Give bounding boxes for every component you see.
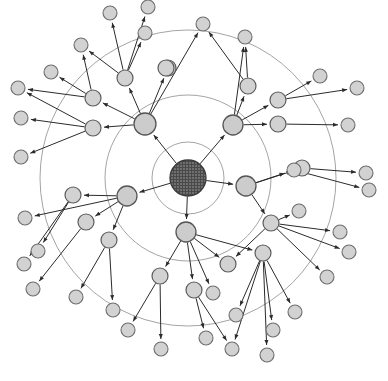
leaf-node-8[interactable]: [14, 150, 28, 164]
edge-hub5-m12-arrow: [190, 274, 194, 279]
mid-node-7[interactable]: [270, 116, 286, 132]
edge-hub5-l35-arrow: [205, 278, 209, 283]
leaf-node-34[interactable]: [287, 163, 301, 177]
mid-node-11[interactable]: [220, 256, 236, 272]
leaf-node-6[interactable]: [11, 81, 25, 95]
hub-upper-left[interactable]: [134, 113, 156, 135]
edge-m10-l23: [235, 261, 260, 339]
mid-node-12[interactable]: [186, 282, 202, 298]
edge-hub2-m5-arrow: [240, 96, 244, 101]
leaf-node-12[interactable]: [350, 81, 364, 95]
mid-node-9[interactable]: [263, 215, 279, 231]
leaf-node-19[interactable]: [320, 270, 334, 284]
leaf-node-16[interactable]: [292, 204, 306, 218]
edge-hub3-m14-arrow: [113, 224, 117, 229]
leaf-node-21[interactable]: [266, 323, 280, 337]
leaf-node-10[interactable]: [238, 30, 252, 44]
edge-hub1-l9-arrow: [194, 33, 198, 38]
leaf-node-23[interactable]: [225, 342, 239, 356]
edge-m6-l12-arrow: [342, 88, 347, 92]
edge-l34-l15-arrow: [354, 184, 359, 188]
leaf-node-17[interactable]: [333, 225, 347, 239]
leaf-node-1[interactable]: [103, 6, 117, 20]
leaf-node-13[interactable]: [341, 118, 355, 132]
leaf-node-31[interactable]: [31, 244, 45, 258]
edge-hub1-m2-arrow: [160, 78, 164, 83]
leaf-node-4[interactable]: [74, 38, 88, 52]
mid-node-13[interactable]: [152, 268, 168, 284]
edge-m14-l28: [81, 247, 105, 288]
radial-network-graph: [0, 0, 388, 381]
edge-m5-l10-arrow: [244, 47, 248, 52]
leaf-node-14[interactable]: [359, 166, 373, 180]
leaf-node-28[interactable]: [69, 290, 83, 304]
hub-upper-right[interactable]: [223, 115, 243, 135]
mid-node-3[interactable]: [85, 90, 101, 106]
edge-hub2-m7-arrow: [262, 122, 267, 126]
edge-m14-l32: [109, 248, 112, 300]
edge-m9-l18: [279, 226, 340, 249]
mid-node-16[interactable]: [65, 187, 81, 203]
edge-m1-l3-arrow: [141, 17, 145, 22]
edge-hub5-m10: [196, 235, 252, 250]
edge-m3-l6: [28, 89, 85, 97]
edge-m13-l26: [160, 285, 161, 340]
mid-node-4[interactable]: [85, 120, 101, 136]
leaf-node-33[interactable]: [18, 211, 32, 225]
mid-node-1[interactable]: [117, 70, 133, 86]
edge-hub3-m15-arrow: [95, 212, 100, 216]
leaf-node-2[interactable]: [138, 26, 152, 40]
edge-center-to-hub-lower-right-arrow: [228, 182, 233, 186]
edge-hub5-m13-arrow: [166, 261, 170, 266]
edge-m9-l19: [277, 229, 320, 270]
leaf-node-3[interactable]: [141, 0, 155, 14]
mid-node-10[interactable]: [255, 245, 271, 261]
leaf-node-15[interactable]: [362, 183, 376, 197]
leaf-node-5[interactable]: [44, 65, 58, 79]
edge-m6-l12: [286, 90, 347, 99]
leaf-node-27[interactable]: [121, 323, 135, 337]
edge-m10-l21-arrow: [269, 315, 273, 320]
mid-node-6[interactable]: [270, 92, 286, 108]
edge-hub5-m10-arrow: [247, 247, 252, 251]
hub-bottom[interactable]: [176, 222, 196, 242]
edge-m9-l18-arrow: [334, 245, 339, 249]
edge-m4-l7: [31, 119, 85, 126]
mid-node-15[interactable]: [78, 214, 94, 230]
leaf-node-7[interactable]: [14, 111, 28, 125]
edge-hub2-m6-arrow: [263, 105, 268, 109]
edge-center-to-hub-bottom-arrow: [185, 214, 189, 219]
edge-l34-l15: [301, 172, 359, 187]
leaf-node-9[interactable]: [196, 17, 210, 31]
hub-lower-right[interactable]: [236, 176, 256, 196]
edge-m5-l9-arrow: [209, 32, 214, 37]
edge-m10-l22-arrow: [264, 340, 268, 345]
leaf-node-35[interactable]: [206, 286, 220, 300]
leaf-node-20[interactable]: [288, 305, 302, 319]
leaf-node-30[interactable]: [17, 257, 31, 271]
edge-m10-l24: [240, 261, 260, 306]
leaf-node-32[interactable]: [106, 303, 120, 317]
edge-m1-l3: [128, 17, 145, 70]
hub-lower-left[interactable]: [117, 186, 137, 206]
leaf-node-29[interactable]: [26, 282, 40, 296]
edge-m7-l13-arrow: [333, 123, 338, 127]
edge-m10-l20: [267, 260, 290, 303]
center-hub[interactable]: [170, 160, 206, 196]
edge-m13-l27: [133, 283, 156, 321]
edge-m6-l11-arrow: [306, 81, 311, 85]
edge-m10-l23-arrow: [235, 334, 239, 339]
leaf-node-26[interactable]: [154, 342, 168, 356]
mid-node-5[interactable]: [240, 78, 256, 94]
leaf-node-25[interactable]: [199, 331, 213, 345]
edge-hub4-m9-arrow: [260, 209, 264, 214]
mid-node-17[interactable]: [158, 60, 174, 76]
leaf-node-11[interactable]: [313, 69, 327, 83]
edge-m3-l6-arrow: [28, 88, 33, 92]
edge-hub3-m16-arrow: [84, 193, 89, 197]
edge-m4-l6-arrow: [27, 93, 32, 97]
leaf-node-18[interactable]: [342, 245, 356, 259]
mid-node-14[interactable]: [101, 232, 117, 248]
leaf-node-22[interactable]: [260, 348, 274, 362]
leaf-node-24[interactable]: [229, 308, 243, 322]
